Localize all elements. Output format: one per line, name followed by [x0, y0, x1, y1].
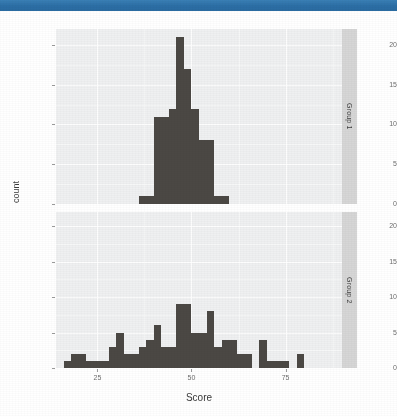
histogram-bar: [161, 117, 169, 205]
facet-panel-group-2: [56, 212, 342, 368]
histogram-bar: [237, 354, 245, 368]
y-axis-tick-label: 10: [351, 120, 397, 128]
y-axis-tick-label: 15: [351, 81, 397, 89]
histogram-bar: [222, 340, 230, 368]
histogram-bar: [176, 37, 184, 204]
x-axis-tick-label: 75: [271, 374, 301, 382]
gridline-vertical-minor: [144, 29, 145, 204]
histogram-bar: [207, 311, 215, 368]
histogram-bar: [71, 354, 79, 368]
gridline-horizontal-minor: [56, 244, 342, 245]
y-axis-tick-mark: [52, 262, 55, 263]
histogram-bar: [64, 361, 72, 368]
gridline-horizontal: [56, 45, 342, 46]
y-axis-tick-label: 5: [351, 160, 397, 168]
gridline-horizontal: [56, 85, 342, 86]
facet-strip-group-2: Group 2: [342, 212, 357, 368]
histogram-bar: [154, 117, 162, 205]
histogram-bar: [267, 361, 275, 368]
gridline-horizontal-minor: [56, 65, 342, 66]
y-axis-tick-mark: [52, 368, 55, 369]
gridline-horizontal: [56, 226, 342, 227]
screenshot-root: Group 1 Group 2 0510152005101520255075 c…: [0, 0, 397, 416]
x-axis-tick-label: 50: [176, 374, 206, 382]
histogram-bar: [86, 361, 94, 368]
histogram-bar: [207, 140, 215, 204]
x-axis-tick-mark: [97, 369, 98, 372]
x-axis-title: Score: [56, 392, 342, 403]
x-axis-tick-label: 25: [82, 374, 112, 382]
histogram-bar: [259, 340, 267, 368]
histogram-bar: [214, 196, 222, 204]
facet-strip-group-1: Group 1: [342, 29, 357, 204]
histogram-bar: [154, 325, 162, 368]
histogram-bar: [109, 347, 117, 368]
histogram-bar: [191, 333, 199, 368]
histogram-plot: Group 1 Group 2 0510152005101520255075 c…: [0, 11, 397, 416]
histogram-bar: [191, 109, 199, 204]
histogram-bar: [282, 361, 290, 368]
histogram-bar: [199, 333, 207, 368]
histogram-bar: [244, 354, 252, 368]
histogram-bar: [131, 354, 139, 368]
y-axis-tick-label: 10: [351, 293, 397, 301]
histogram-bar: [101, 361, 109, 368]
histogram-bar: [214, 347, 222, 368]
histogram-bar: [222, 196, 230, 204]
histogram-bar: [94, 361, 102, 368]
histogram-bar: [139, 347, 147, 368]
gridline-vertical-minor: [333, 29, 334, 204]
histogram-bar: [146, 340, 154, 368]
facet-panel-group-1: [56, 29, 342, 204]
gridline-vertical-minor: [333, 212, 334, 368]
histogram-bar: [146, 196, 154, 204]
histogram-bar: [169, 347, 177, 368]
gridline-horizontal: [56, 262, 342, 263]
y-axis-tick-mark: [52, 333, 55, 334]
y-axis-title: count: [11, 162, 21, 222]
histogram-bar: [229, 340, 237, 368]
histogram-bar: [116, 333, 124, 368]
y-axis-tick-mark: [52, 226, 55, 227]
gridline-horizontal-minor: [56, 105, 342, 106]
histogram-bar: [274, 361, 282, 368]
gridline-vertical: [286, 29, 287, 204]
y-axis-tick-label: 5: [351, 329, 397, 337]
gridline-vertical: [97, 29, 98, 204]
y-axis-tick-mark: [52, 85, 55, 86]
histogram-bar: [199, 140, 207, 204]
y-axis-tick-label: 20: [351, 41, 397, 49]
y-axis-tick-mark: [52, 164, 55, 165]
gridline-vertical: [97, 212, 98, 368]
gridline-vertical-minor: [144, 212, 145, 368]
histogram-bar: [184, 304, 192, 368]
histogram-bar: [184, 69, 192, 204]
y-axis-tick-mark: [52, 124, 55, 125]
y-axis-tick-label: 20: [351, 222, 397, 230]
histogram-bar: [79, 354, 87, 368]
gridline-horizontal-minor: [56, 279, 342, 280]
gridline-vertical-minor: [239, 212, 240, 368]
y-axis-tick-mark: [52, 45, 55, 46]
x-axis-tick-mark: [191, 369, 192, 372]
y-axis-tick-label: 15: [351, 258, 397, 266]
gridline-horizontal: [56, 297, 342, 298]
histogram-bar: [176, 304, 184, 368]
window-titlebar: [0, 0, 397, 11]
histogram-bar: [124, 354, 132, 368]
histogram-bar: [169, 109, 177, 204]
histogram-bar: [139, 196, 147, 204]
gridline-horizontal-minor: [56, 315, 342, 316]
y-axis-tick-label: 0: [351, 364, 397, 372]
gridline-horizontal: [56, 124, 342, 125]
histogram-bar: [297, 354, 305, 368]
y-axis-tick-mark: [52, 204, 55, 205]
y-axis-tick-mark: [52, 297, 55, 298]
gridline-vertical: [286, 212, 287, 368]
histogram-bar: [161, 347, 169, 368]
y-axis-tick-label: 0: [351, 200, 397, 208]
gridline-vertical-minor: [239, 29, 240, 204]
x-axis-tick-mark: [286, 369, 287, 372]
